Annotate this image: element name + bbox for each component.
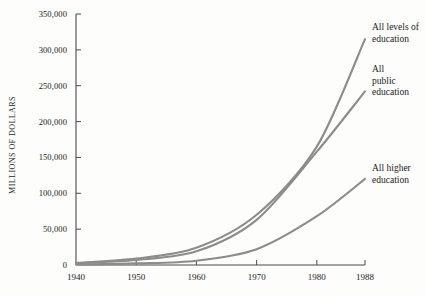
- chart-container: MILLIONS OF DOLLARS 050,000100,000150,00…: [0, 0, 425, 296]
- series-line-0: [76, 39, 365, 263]
- series-line-2: [76, 179, 365, 265]
- series-lines: [76, 39, 365, 264]
- plot-area: [0, 0, 425, 296]
